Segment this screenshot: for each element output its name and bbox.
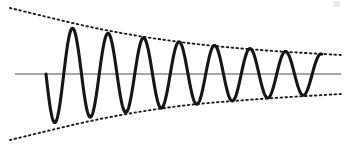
damped-oscillation-figure [0, 0, 347, 145]
chart-canvas [0, 0, 347, 145]
scan-artifact-speck [333, 1, 340, 7]
